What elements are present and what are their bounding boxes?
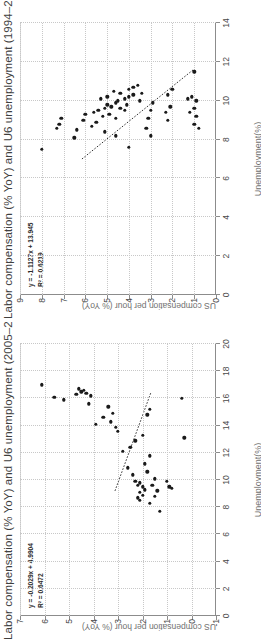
figure-page: Labor compensation (% YoY) and U6 unempl…: [0, 0, 261, 643]
gridline-horizontal: [107, 23, 108, 295]
gridline-horizontal: [45, 344, 46, 616]
x-tick-mark: [216, 177, 220, 178]
x-tick-label: 18: [221, 366, 231, 375]
x-tick-mark: [216, 343, 220, 344]
y-tick-label: 5: [64, 619, 74, 630]
regression-annotation-2005-2019: y = -0.2029x + 4.9904 R² = 0.6472: [26, 543, 45, 608]
x-tick-mark: [216, 100, 220, 101]
plot-area-2005-2019: y = -0.2029x + 4.9904 R² = 0.6472 024681…: [20, 344, 216, 616]
gridline-horizontal: [20, 23, 21, 295]
y-tick-label: 6: [40, 619, 50, 630]
gridline-horizontal: [94, 344, 95, 616]
x-tick-label: 0: [221, 614, 231, 619]
x-tick-mark: [216, 479, 220, 480]
x-axis-label-1994-2005: Unemployment(%): [253, 23, 261, 295]
x-tick-label: 4: [221, 215, 231, 220]
x-axis-label-2005-2019: Unemployment(%): [253, 344, 261, 616]
gridline-horizontal: [192, 344, 193, 616]
x-tick-mark: [216, 397, 220, 398]
x-tick-label: 4: [221, 559, 231, 564]
x-tick-label: 16: [221, 394, 231, 403]
x-tick-label: 14: [221, 18, 231, 27]
gridline-horizontal: [69, 344, 70, 616]
y-tick-label: 7: [15, 619, 25, 630]
x-tick-label: 0: [221, 293, 231, 298]
y-tick-label: 9: [15, 298, 25, 309]
x-tick-label: 8: [221, 137, 231, 142]
gridline-horizontal: [143, 344, 144, 616]
gridline-horizontal: [64, 23, 65, 295]
plot-area-1994-2005: y = -1.1127x + 13.945 R² = 0.6219 024681…: [20, 23, 216, 295]
y-axis-label-1994-2005: US compensation per hour (% YoY): [82, 301, 216, 311]
gridline-horizontal: [85, 23, 86, 295]
chart-title-2005-2019: Labor compensation (% YoY) and U6 unempl…: [2, 321, 14, 642]
x-tick-mark: [216, 139, 220, 140]
x-tick-label: 6: [221, 176, 231, 181]
gridline-vertical: [20, 22, 216, 23]
x-tick-label: 2: [221, 254, 231, 259]
x-tick-label: 14: [221, 421, 231, 430]
gridline-vertical: [20, 177, 216, 178]
equation-text: y = -0.2029x + 4.9904: [26, 543, 36, 608]
gridline-horizontal: [118, 344, 119, 616]
gridline-horizontal: [20, 344, 21, 616]
gridline-vertical: [20, 216, 216, 217]
x-tick-label: 8: [221, 505, 231, 510]
x-tick-label: 6: [221, 532, 231, 537]
chart-panel-1994-2005: Labor compensation (% YoY) and U6 unempl…: [0, 0, 261, 321]
x-tick-mark: [216, 216, 220, 217]
gridline-horizontal: [172, 23, 173, 295]
gridline-horizontal: [129, 23, 130, 295]
gridline-horizontal: [42, 23, 43, 295]
x-tick-mark: [216, 255, 220, 256]
gridline-horizontal: [151, 23, 152, 295]
x-tick-mark: [216, 588, 220, 589]
gridline-horizontal: [194, 23, 195, 295]
x-tick-mark: [216, 425, 220, 426]
x-tick-mark: [216, 533, 220, 534]
x-tick-label: 2: [221, 586, 231, 591]
x-tick-mark: [216, 370, 220, 371]
chart-title-1994-2005: Labor compensation (% YoY) and U6 unempl…: [2, 0, 14, 321]
chart-panel-2005-2019: Labor compensation (% YoY) and U6 unempl…: [0, 321, 261, 643]
x-tick-label: 10: [221, 96, 231, 105]
x-tick-mark: [216, 22, 220, 23]
x-tick-mark: [216, 561, 220, 562]
y-axis-label-2005-2019: US compensation per hour (% YoY): [82, 622, 216, 632]
x-tick-mark: [216, 506, 220, 507]
y-tick-label: 8: [37, 298, 47, 309]
gridline-vertical: [20, 61, 216, 62]
x-tick-label: 10: [221, 475, 231, 484]
x-tick-label: 12: [221, 448, 231, 457]
x-tick-label: 12: [221, 57, 231, 66]
x-tick-mark: [216, 452, 220, 453]
x-tick-label: 20: [221, 339, 231, 348]
gridline-vertical: [20, 255, 216, 256]
x-tick-mark: [216, 61, 220, 62]
y-tick-label: 7: [59, 298, 69, 309]
gridline-vertical: [20, 139, 216, 140]
